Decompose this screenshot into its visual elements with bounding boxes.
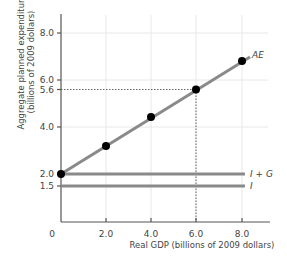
y-tick-label-8-0: 8.0: [40, 28, 55, 38]
ae-label: AE: [251, 50, 264, 60]
y-axis-title-line2: (billions of 2009 dollars): [26, 11, 36, 114]
i-plus-g-label: I + G: [250, 169, 273, 179]
ae-line: [61, 57, 250, 174]
x-tick-label-2-0: 2.0: [99, 229, 114, 239]
i-label: I: [250, 181, 253, 191]
y-tick-label-5-6: 5.6: [40, 85, 55, 95]
y-tick-label-6-0: 6.0: [40, 75, 55, 85]
ae-point-2: [102, 142, 110, 150]
ae-point-0: [57, 170, 65, 178]
x-tick-label-0: 0: [49, 229, 55, 239]
ae-point-8: [238, 57, 246, 65]
x-tick-label-8-0: 8.0: [235, 229, 250, 239]
y-axis-title: Aggregate planned expenditure (billions …: [16, 0, 36, 130]
dotted-guides: [61, 90, 196, 223]
axes: [57, 14, 270, 222]
y-tick-label-1-5: 1.5: [40, 181, 54, 191]
y-tick-label-4-0: 4.0: [40, 122, 55, 132]
ae-point-6: [192, 86, 200, 94]
x-tick-label-6-0: 6.0: [189, 229, 204, 239]
x-tick-label-4-0: 4.0: [144, 229, 159, 239]
gridlines: [61, 15, 268, 222]
y-tick-label-2-0: 2.0: [40, 169, 55, 179]
y-axis-title-line1: Aggregate planned expenditure: [16, 0, 26, 130]
y-tick-labels: 8.0 6.0 5.6 4.0 2.0 1.5: [40, 28, 55, 191]
x-axis-title: Real GDP (billions of 2009 dollars): [130, 240, 275, 250]
aggregate-expenditure-chart: AE I + G I 8.0 6.0 5.6 4.0 2.0 1.5 0 2.0…: [0, 0, 287, 264]
ae-point-4: [147, 113, 155, 121]
x-tick-labels: 0 2.0 4.0 6.0 8.0: [49, 229, 249, 239]
